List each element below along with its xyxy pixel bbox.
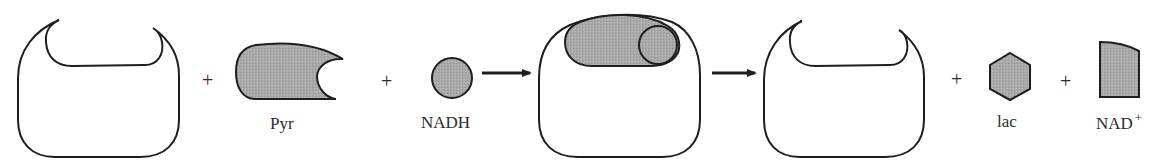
pyruvate-label: Pyr — [270, 114, 294, 133]
enzyme-released — [764, 21, 924, 157]
nad-plus-shape — [1100, 42, 1139, 97]
enzyme-free — [18, 20, 179, 157]
nad-plus-label: NAD+ — [1096, 110, 1142, 133]
pyruvate-molecule: Pyr — [236, 43, 343, 133]
nad-plus-molecule: NAD+ — [1096, 42, 1142, 133]
enzyme-substrate-complex — [539, 15, 700, 157]
enzyme-free-shape — [18, 20, 179, 157]
enzyme-released-shape — [764, 21, 924, 157]
reaction-diagram: + Pyr + NADH + lac — [0, 0, 1160, 165]
pyruvate-shape — [236, 43, 343, 99]
plus-sign-3: + — [951, 68, 962, 90]
plus-sign-2: + — [381, 70, 392, 92]
complex-nadh-shape — [639, 26, 677, 64]
nadh-shape — [432, 58, 472, 98]
plus-sign-4: + — [1060, 70, 1071, 92]
lactate-molecule: lac — [990, 53, 1030, 131]
nadh-molecule: NADH — [421, 58, 472, 132]
nadh-label: NADH — [421, 113, 470, 132]
lactate-label: lac — [997, 112, 1017, 131]
lactate-shape — [990, 53, 1030, 100]
reaction-diagram-canvas: + Pyr + NADH + lac — [0, 0, 1160, 165]
plus-sign-1: + — [202, 69, 213, 91]
